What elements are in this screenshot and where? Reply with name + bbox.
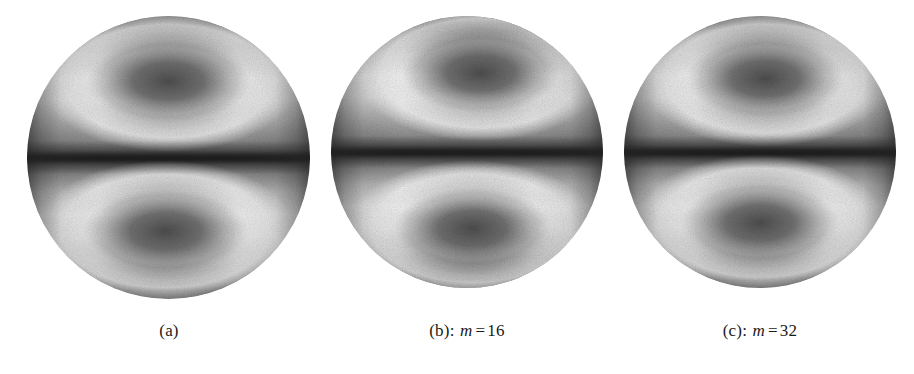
caption-b-separator: : [450, 321, 455, 340]
sphere-a [27, 16, 310, 299]
caption-b-value: 16 [487, 321, 504, 340]
sphere-b-grain-texture [331, 16, 603, 288]
caption-c: (c): m=32 [624, 320, 896, 342]
caption-c-variable: m [752, 321, 766, 340]
caption-b-equals: = [474, 321, 488, 340]
panel-c: (c): m=32 [624, 0, 896, 374]
caption-c-equals: = [766, 321, 780, 340]
figure-container: (a) [0, 0, 914, 374]
caption-b-label: (b) [429, 321, 449, 340]
caption-a: (a) [0, 320, 338, 342]
caption-b: (b): m=16 [331, 320, 603, 342]
caption-c-value: 32 [780, 321, 797, 340]
panel-b: (b): m=16 [331, 0, 603, 374]
panel-a: (a) [0, 0, 338, 374]
sphere-a-wrap [27, 16, 310, 299]
sphere-c-grain-texture [624, 16, 896, 288]
caption-a-label: (a) [159, 321, 178, 340]
sphere-c-wrap [624, 16, 896, 288]
caption-c-label: (c) [723, 321, 742, 340]
sphere-b [331, 16, 603, 288]
sphere-b-wrap [331, 16, 603, 288]
caption-b-variable: m [459, 321, 473, 340]
sphere-a-grain-texture [27, 16, 310, 299]
caption-c-separator: : [742, 321, 747, 340]
sphere-c [624, 16, 896, 288]
